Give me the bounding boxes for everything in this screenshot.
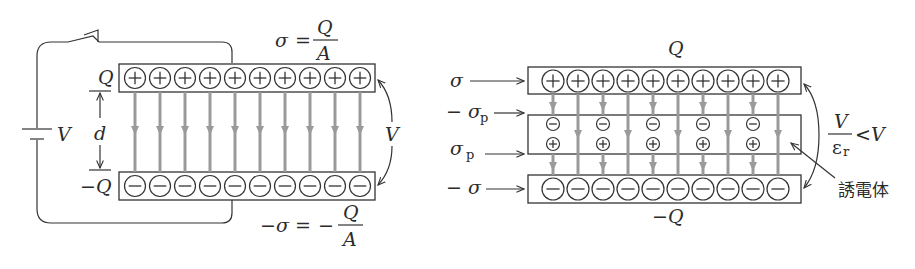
plus-charge-icon (300, 68, 321, 89)
plus-charge-icon (747, 138, 760, 151)
field-arrow-icon (749, 94, 757, 115)
neg-sigma-label: − σ (446, 176, 482, 198)
minus-charge-icon (692, 178, 714, 200)
minus-charge-icon (667, 178, 689, 200)
plus-charge-icon (597, 138, 610, 151)
plus-charge-icon (592, 70, 614, 92)
voltage-arrow-top (378, 80, 392, 122)
minus-charge-icon (225, 176, 246, 197)
subscript-r: r (843, 144, 850, 159)
plus-charge-icon (542, 70, 564, 92)
minus-charge-icon (325, 176, 346, 197)
minus-charge-icon (175, 176, 196, 197)
plus-charge-icon (742, 70, 764, 92)
bottom-density-numerator: Q (343, 201, 359, 223)
minus-charge-icon (617, 178, 639, 200)
sigma-label: σ (450, 69, 464, 91)
field-arrow-icon (131, 92, 139, 172)
plus-charge-icon (647, 138, 660, 151)
right-capacitor: Q −Q σ − σ p σ p − σ V ε r <V 誘電体 (446, 37, 889, 227)
minus-charge-icon (597, 118, 610, 131)
subscript-p: p (466, 147, 474, 162)
minus-charge-icon (150, 176, 171, 197)
top-density-symbol: σ (275, 29, 289, 51)
field-arrow-icon (699, 154, 707, 175)
minus-charge-icon (697, 118, 710, 131)
bottom-density-symbol: −σ (260, 214, 290, 236)
minus-charge-icon (300, 176, 321, 197)
plus-charge-icon (692, 70, 714, 92)
field-arrow-icon (699, 94, 707, 115)
capacitor-diagrams: V Q −Q d V σ = Q A −σ = − Q A (0, 0, 915, 269)
plus-charge-icon (150, 68, 171, 89)
top-density-denominator: A (315, 42, 331, 64)
minus-charge-icon (542, 178, 564, 200)
voltage-arrow-bottom (378, 146, 392, 185)
bottom-density-minus: − (318, 214, 334, 236)
top-charge-label: Q (668, 37, 684, 59)
minus-charge-icon (200, 176, 221, 197)
minus-charge-icon (647, 118, 660, 131)
minus-charge-icon (717, 178, 739, 200)
voltage-arrow-top (804, 84, 819, 135)
plus-charge-icon (225, 68, 246, 89)
plus-charge-icon (547, 138, 560, 151)
field-arrow-icon (649, 154, 657, 175)
top-density-equals: = (295, 29, 311, 51)
minus-charge-icon (747, 118, 760, 131)
gap-label: d (94, 122, 106, 144)
sigma-p-label: σ (450, 137, 464, 159)
minus-charge-icon (642, 178, 664, 200)
field-arrow-icon (356, 92, 364, 172)
plus-charge-icon (642, 70, 664, 92)
voltage-denominator: ε (832, 136, 842, 158)
field-arrow-icon (549, 94, 557, 115)
minus-charge-icon (350, 176, 371, 197)
minus-charge-icon (742, 178, 764, 200)
field-arrow-icon (749, 154, 757, 175)
plus-charge-icon (350, 68, 371, 89)
minus-charge-icon (275, 176, 296, 197)
field-arrow-icon (256, 92, 264, 172)
plus-charge-icon (175, 68, 196, 89)
plus-charge-icon (200, 68, 221, 89)
field-arrow-icon (599, 154, 607, 175)
voltage-arrow-bottom (804, 135, 819, 188)
top-charge-label: Q (98, 66, 114, 88)
field-arrow-icon (181, 92, 189, 172)
field-arrow-icon (599, 94, 607, 115)
field-lines (131, 92, 364, 172)
field-arrow-icon (156, 92, 164, 172)
field-arrow-icon (331, 92, 339, 172)
plus-charge-icon (717, 70, 739, 92)
plus-charge-icon (667, 70, 689, 92)
field-arrow-icon (281, 92, 289, 172)
dielectric-slab (528, 115, 801, 154)
plus-charge-icon (567, 70, 589, 92)
field-arrow-icon (549, 154, 557, 175)
bottom-density-denominator: A (341, 228, 357, 250)
plus-charge-icon (275, 68, 296, 89)
plus-charge-icon (325, 68, 346, 89)
plus-charge-icon (767, 70, 789, 92)
left-capacitor: V Q −Q d V σ = Q A −σ = − Q A (22, 16, 401, 250)
field-arrow-icon (306, 92, 314, 172)
bottom-density-equals: = (295, 214, 311, 236)
field-arrow-icon (231, 92, 239, 172)
minus-charge-icon (567, 178, 589, 200)
bottom-charge-label: −Q (80, 175, 112, 197)
top-density-numerator: Q (317, 16, 333, 38)
minus-charge-icon (547, 118, 560, 131)
minus-charge-icon (125, 176, 146, 197)
bottom-charge-label: −Q (652, 205, 684, 227)
voltage-numerator: V (834, 110, 850, 132)
plus-charge-icon (125, 68, 146, 89)
minus-charge-icon (767, 178, 789, 200)
minus-charge-icon (592, 178, 614, 200)
voltage-relation: <V (855, 123, 887, 145)
neg-sigma-p-label: − σ (446, 100, 482, 122)
field-arrow-icon (206, 92, 214, 172)
minus-charge-icon (250, 176, 271, 197)
battery-voltage-label: V (57, 123, 73, 145)
plus-charge-icon (697, 138, 710, 151)
